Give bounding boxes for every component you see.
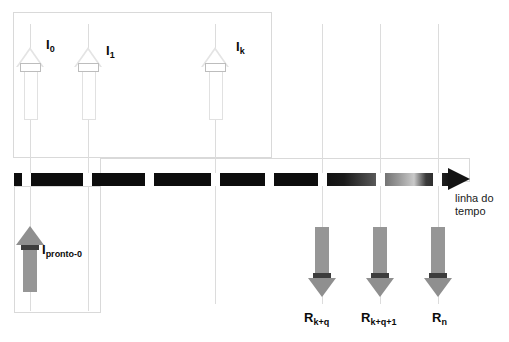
diagram-canvas: I0 I1 Ik linha do tempo Ipronto-0 — [0, 0, 509, 342]
arrow-shaft — [209, 67, 223, 120]
arrow-shaft — [82, 67, 96, 120]
timeline-tick — [22, 173, 31, 186]
timeline-tick — [376, 173, 385, 186]
timeline-caption-line2: tempo — [455, 205, 509, 218]
timeline-tick — [433, 173, 442, 186]
label-subscript: k+q+1 — [370, 317, 396, 327]
response-label-rkq: Rk+q — [304, 311, 329, 324]
arrowhead-up-icon — [16, 226, 44, 245]
timeline-caption-line1: linha do — [455, 192, 509, 205]
arrow-shaft — [23, 250, 37, 292]
arrowhead-down-icon — [308, 278, 336, 297]
guide-rect-upper — [13, 12, 272, 158]
arrow-notch — [20, 63, 41, 72]
label-subscript: k+q — [313, 317, 329, 327]
arrow-notch — [78, 63, 99, 72]
label-subscript: 1 — [110, 50, 115, 60]
timeline-tick — [265, 173, 274, 186]
arrowhead-down-icon — [366, 278, 394, 297]
arrow-shaft — [315, 227, 329, 273]
timeline-arrowhead-icon — [448, 168, 470, 190]
arrowhead-down-icon — [424, 278, 452, 297]
response-label-rkq1: Rk+q+1 — [361, 311, 396, 324]
arrival-label-i1: I1 — [106, 44, 115, 57]
timeline-tick — [318, 173, 327, 186]
label-subscript: n — [441, 317, 447, 327]
label-subscript: pronto-0 — [46, 249, 83, 259]
arrow-notch — [205, 63, 226, 72]
label-base: R — [432, 310, 441, 325]
arrival-label-ik: Ik — [236, 40, 245, 53]
label-base: R — [361, 310, 370, 325]
timeline-caption: linha do tempo — [455, 192, 509, 217]
timeline-tick — [145, 173, 154, 186]
timeline-bar — [14, 173, 451, 186]
response-label-rn: Rn — [432, 311, 447, 324]
arrow-shaft — [373, 227, 387, 273]
label-subscript: k — [240, 46, 245, 56]
arrow-shaft — [431, 227, 445, 273]
label-base: R — [304, 310, 313, 325]
ready-label-ipronto0: Ipronto-0 — [42, 243, 82, 256]
arrow-shaft — [24, 67, 38, 120]
timeline-tick — [83, 173, 92, 186]
timeline-tick — [211, 173, 220, 186]
arrival-label-i0: I0 — [46, 38, 55, 51]
label-subscript: 0 — [50, 44, 55, 54]
